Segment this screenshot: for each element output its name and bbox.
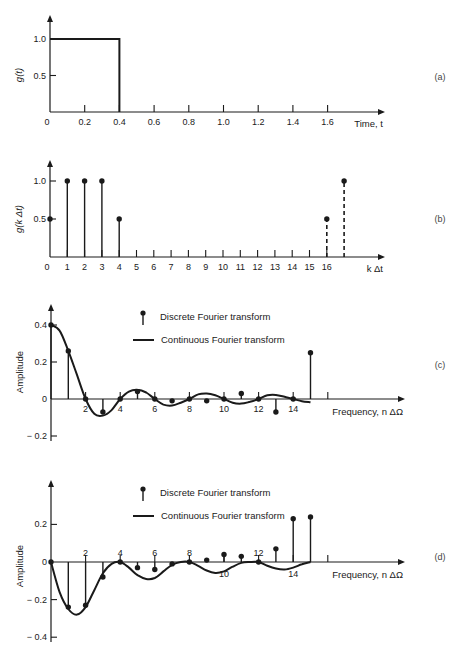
x-axis-label: Time, t (354, 118, 383, 129)
y-tick-label: − 0.2 (27, 595, 47, 605)
dft-dot (152, 567, 157, 572)
dft-dot (48, 322, 53, 327)
sample-dot (82, 178, 87, 183)
y-tick-label: 1.0 (33, 176, 46, 186)
x-tick-label: 7 (169, 262, 174, 272)
dft-dot (204, 557, 209, 562)
x-axis-label: Frequency, n ΔΩ (332, 406, 403, 417)
dft-dot (221, 552, 226, 557)
legend-label-discrete: Discrete Fourier transform (160, 311, 270, 322)
fourier-figure: 0.51.000.20.40.60.81.01.21.41.6g(t)Time,… (0, 0, 462, 655)
dft-dot (83, 396, 88, 401)
dft-dot (291, 516, 296, 521)
panel-c-dft-real: 0.40.20− 0.22468101214AmplitudeFrequency… (14, 304, 445, 441)
dft-dot (135, 389, 140, 394)
x-tick-label: 2 (83, 404, 88, 414)
sample-dot (99, 178, 104, 183)
legend-dot-icon (140, 310, 145, 315)
panel-d-dft-imag: 0.20− 0.2− 0.42468101214AmplitudeFrequen… (14, 480, 446, 642)
y-tick-label: 1.0 (33, 34, 46, 44)
x-tick-label: 1.6 (321, 117, 334, 127)
dft-dot (187, 559, 192, 564)
dft-dot (169, 561, 174, 566)
y-tick-label: 0.2 (34, 519, 47, 529)
x-tick-label: 0.2 (78, 117, 91, 127)
x-axis-label: Frequency, n ΔΩ (332, 569, 403, 580)
x-tick-label: 8 (186, 262, 191, 272)
dft-dot (83, 603, 88, 608)
x-tick-label: 0.8 (183, 117, 196, 127)
sample-dot (65, 178, 70, 183)
dft-dot (239, 554, 244, 559)
x-tick-label: 12 (254, 548, 264, 558)
y-axis-label: Amplitude (14, 351, 25, 393)
dft-dot (308, 350, 313, 355)
dft-dot (204, 398, 209, 403)
x-tick-label: 12 (253, 262, 263, 272)
sample-dot (341, 178, 346, 183)
y-tick-label: 0.4 (34, 320, 47, 330)
x-tick-label: 1.0 (217, 117, 230, 127)
x-tick-label: 12 (254, 404, 264, 414)
x-tick-label: 6 (151, 262, 156, 272)
y-axis-label: Amplitude (14, 545, 25, 587)
panel-label: (c) (435, 360, 446, 370)
dft-dot (66, 604, 71, 609)
panel-label: (b) (435, 214, 446, 224)
y-tick-label: 0 (42, 394, 47, 404)
dft-dot (100, 409, 105, 414)
sample-dot (47, 216, 52, 221)
y-tick-label: 0.5 (33, 71, 46, 81)
x-tick-label: 10 (218, 262, 228, 272)
x-tick-label: 1 (65, 262, 70, 272)
dft-dot (273, 409, 278, 414)
dft-dot (256, 559, 261, 564)
y-axis-arrow-icon (47, 15, 53, 22)
legend-dot-icon (140, 486, 145, 491)
x-tick-label: 0.4 (113, 117, 126, 127)
pulse-line (50, 39, 119, 112)
dft-dot (48, 559, 53, 564)
x-tick-label: 0 (44, 117, 49, 127)
y-axis-label: g(k Δt) (13, 205, 24, 233)
x-tick-label: 2 (82, 262, 87, 272)
dft-dot (256, 396, 261, 401)
x-axis-label: k Δt (367, 263, 384, 274)
dft-dot (100, 574, 105, 579)
dft-dot (66, 348, 71, 353)
x-tick-label: 8 (187, 404, 192, 414)
x-axis-arrow-icon (398, 559, 405, 565)
x-tick-label: 14 (287, 262, 297, 272)
x-tick-label: 5 (134, 262, 139, 272)
dft-dot (135, 565, 140, 570)
x-axis-arrow-icon (398, 396, 405, 402)
x-axis-arrow-icon (378, 109, 385, 115)
x-tick-label: 4 (118, 404, 123, 414)
y-axis-arrow-icon (48, 480, 54, 487)
y-tick-label: 0 (42, 557, 47, 567)
x-tick-label: 10 (219, 404, 229, 414)
y-tick-label: − 0.2 (27, 431, 47, 441)
panel-label: (d) (435, 552, 446, 562)
x-tick-label: 16 (322, 262, 332, 272)
x-tick-label: 6 (152, 404, 157, 414)
x-tick-label: 4 (118, 548, 123, 558)
panel-b-sampled-pulse: 0.51.0012345678910111213141516g(k Δt)k Δ… (13, 160, 446, 274)
dft-dot (273, 546, 278, 551)
x-tick-label: 13 (270, 262, 280, 272)
x-tick-label: 11 (236, 262, 245, 272)
y-axis-arrow-icon (48, 304, 54, 311)
x-tick-label: 15 (304, 262, 314, 272)
x-axis-arrow-icon (378, 254, 385, 260)
legend-label-discrete: Discrete Fourier transform (160, 487, 270, 498)
y-axis-arrow-icon (47, 160, 53, 167)
x-tick-label: 0.6 (148, 117, 161, 127)
x-tick-label: 8 (187, 548, 192, 558)
x-tick-label: 2 (83, 548, 88, 558)
dft-dot (308, 514, 313, 519)
y-axis-label: g(t) (13, 68, 24, 82)
x-tick-label: 14 (288, 569, 298, 579)
dft-dot (118, 559, 123, 564)
x-tick-label: 1.2 (252, 117, 265, 127)
sample-dot (324, 216, 329, 221)
